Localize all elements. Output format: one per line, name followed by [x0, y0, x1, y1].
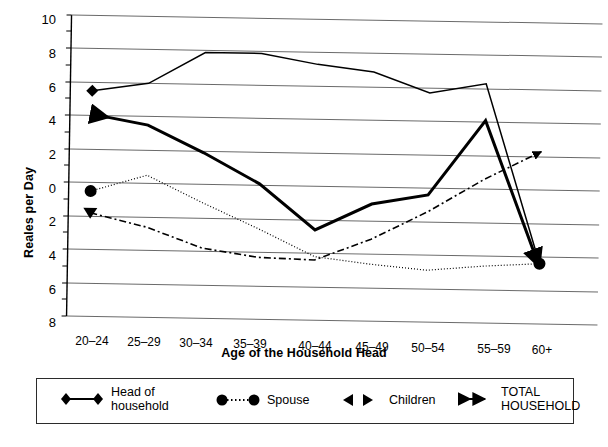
x-tick-label: 30–34: [168, 337, 224, 349]
gridline-4: [70, 115, 601, 124]
x-tick-label: 60+: [519, 344, 565, 356]
gridlines: [67, 15, 603, 325]
children-start-marker: [83, 208, 97, 219]
head-of-household-start-marker: [86, 85, 98, 97]
x-tick-label: 20–24: [64, 335, 120, 347]
diamond-line-icon: [59, 391, 105, 407]
y-axis-ticks: [62, 15, 72, 316]
x-tick-label: 55–59: [466, 343, 522, 355]
y-tick-label: 8: [22, 47, 56, 60]
series-total-household: [89, 114, 541, 267]
x-tick-label: 50–54: [400, 342, 456, 354]
legend-label: Children: [389, 393, 436, 407]
y-tick-label: 2: [22, 215, 56, 228]
chart-container: Reales per Day Age of the Household Head…: [0, 0, 608, 447]
y-axis-line: [67, 15, 72, 316]
y-axis-title: Reales per Day: [22, 167, 36, 258]
spouse-start-marker: [85, 185, 97, 197]
chart-legend: Head of household Spouse Children: [36, 378, 574, 424]
double-arrow-icon: [449, 391, 495, 407]
gridline-10: [72, 15, 603, 24]
gridline-neg2: [68, 216, 599, 225]
legend-item-children: Children: [337, 392, 436, 408]
y-tick-label: 0: [22, 182, 56, 195]
y-tick-label: 6: [22, 283, 56, 296]
gridline-6: [70, 82, 601, 91]
x-tick-label: 40–44: [287, 340, 343, 352]
children-line: [90, 144, 542, 263]
y-tick-label: 4: [22, 114, 56, 127]
spouse-line: [89, 174, 540, 272]
gridline-neg4: [68, 249, 599, 258]
legend-item-total-household: TOTAL HOUSEHOLD: [449, 385, 580, 413]
circle-dotted-line-icon: [215, 392, 261, 408]
plot-skew-group: [62, 15, 603, 325]
series-children: [90, 144, 542, 263]
legend-label: TOTAL HOUSEHOLD: [501, 385, 580, 413]
x-tick-label: 25–29: [116, 336, 172, 348]
head-of-household-line: [90, 51, 543, 264]
y-tick-label: 10: [22, 13, 56, 26]
y-tick-label: 6: [22, 81, 56, 94]
series-spouse: [89, 174, 540, 272]
legend-label: Spouse: [267, 393, 309, 407]
y-tick-label: 2: [22, 148, 56, 161]
gridline-neg8: [67, 316, 598, 325]
triangle-pair-icon: [337, 392, 383, 408]
gridline-0: [69, 182, 600, 191]
gridline-neg6: [67, 283, 598, 292]
y-tick-label: 4: [22, 249, 56, 262]
gridline-8: [71, 48, 602, 57]
x-tick-label: 45–49: [344, 341, 400, 353]
spouse-end-marker: [533, 258, 545, 270]
legend-item-spouse: Spouse: [215, 392, 309, 408]
series-markers: [82, 85, 548, 270]
series-head-of-household: [90, 51, 543, 264]
y-tick-label: 8: [22, 316, 56, 329]
gridline-2: [69, 149, 600, 158]
x-tick-label: 35–39: [222, 338, 278, 350]
legend-item-head-of-household: Head of household: [59, 385, 169, 413]
total-household-line: [89, 114, 541, 267]
legend-label: Head of household: [111, 385, 169, 413]
